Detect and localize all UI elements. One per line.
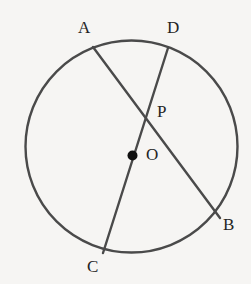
center-point-o-dot (128, 151, 138, 161)
point-label-d: D (167, 19, 179, 36)
point-label-a: A (78, 19, 90, 36)
point-label-o: O (146, 146, 158, 163)
chord-ab-line (93, 47, 220, 218)
circle-outline (26, 41, 238, 253)
point-label-p: P (157, 103, 166, 120)
circle-diagram-canvas (0, 0, 251, 284)
geometry-diagram: A D P O B C (0, 0, 251, 284)
point-label-c: C (87, 258, 98, 275)
point-label-b: B (223, 216, 234, 233)
